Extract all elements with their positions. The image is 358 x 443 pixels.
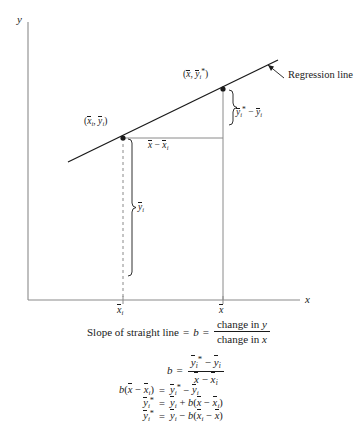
b-ratio-symbol: b xyxy=(167,364,173,376)
run-label: x − xi xyxy=(148,141,168,151)
plot-canvas xyxy=(0,0,358,320)
slope-numerator-var: y xyxy=(262,318,267,330)
y-axis-label: y xyxy=(17,14,22,25)
x-tick-label-xbar: x xyxy=(219,305,223,315)
derivation-lhs-3: yi* xyxy=(92,409,159,424)
height-label: yi xyxy=(138,203,144,213)
x-axis-label: x xyxy=(305,294,310,305)
slope-denominator-var: x xyxy=(262,333,267,345)
slope-definition-equation: Slope of straight line = b = change in y… xyxy=(0,318,358,345)
derivation-equations: b(x − xi) = yi* − yi yi* = yi + b(x − xi… xyxy=(0,384,358,423)
derivation-row-3: yi* = yi − b(xi − x) xyxy=(0,410,358,422)
derivation-rhs-3: yi − b(xi − x) xyxy=(165,410,266,423)
slope-numerator: change in y xyxy=(214,318,270,331)
height-brace xyxy=(128,139,136,276)
derivation-row-2: yi* = yi + b(x − xi) xyxy=(0,397,358,409)
slope-symbol-b: b xyxy=(193,326,199,338)
regression-line-annotation: Regression line xyxy=(288,70,353,81)
lower-point-label: (xi, yi) xyxy=(84,117,107,127)
plot-area: y x Regression line (x, yi*) (xi, yi) yi… xyxy=(0,0,358,320)
slope-denominator: change in x xyxy=(214,332,270,345)
slope-numerator-text: change in xyxy=(217,318,259,330)
lower-point-marker xyxy=(120,135,125,140)
b-ratio-numerator: yi* − yi xyxy=(188,354,224,371)
x-tick-label-xi: xi xyxy=(117,305,123,317)
slope-equals-2: = xyxy=(203,326,209,338)
upper-point-marker xyxy=(220,86,225,91)
slope-lead-text: Slope of straight line xyxy=(87,326,179,338)
slope-equals-1: = xyxy=(183,326,189,338)
slope-denominator-text: change in xyxy=(217,333,259,345)
derivation-rhs-2: yi + b(x − xi) xyxy=(165,397,266,410)
derivation-row-1: b(x − xi) = yi* − yi xyxy=(0,384,358,396)
rise-label: yi* − yi xyxy=(236,106,262,118)
formula-block: Slope of straight line = b = change in y… xyxy=(0,318,358,443)
slope-fraction: change in y change in x xyxy=(214,318,270,345)
upper-point-label: (x, yi*) xyxy=(183,68,208,80)
regression-line-arrowhead xyxy=(268,65,274,71)
derivation-lhs-1: b(x − xi) xyxy=(92,384,159,397)
b-ratio-equals: = xyxy=(177,364,183,376)
regression-figure: y x Regression line (x, yi*) (xi, yi) yi… xyxy=(0,0,358,443)
